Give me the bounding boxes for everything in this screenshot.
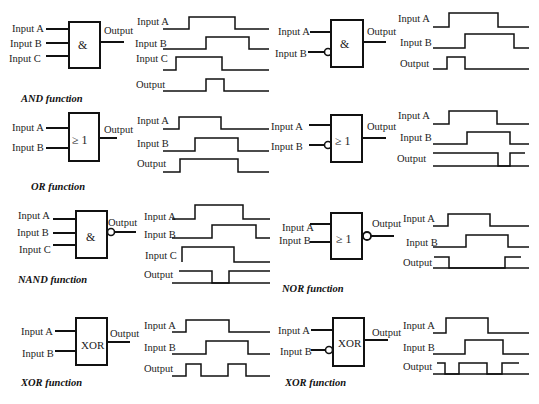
waveform-a: [163, 117, 269, 129]
xor-gate-sign: XOR: [81, 339, 105, 351]
xor-gate-panel: Input A Input B XOR Output XOR function …: [20, 318, 270, 388]
and2-output-label: Output: [367, 26, 396, 37]
wave-label-b: Input B: [400, 37, 432, 48]
waveform-output-high: [433, 153, 525, 166]
wave-label-output: Output: [137, 158, 166, 169]
wave-label-a: Input A: [398, 110, 430, 121]
xor2-output-label: Output: [372, 327, 401, 338]
or-function-title: OR function: [31, 181, 85, 192]
wave-label-a: Input A: [403, 320, 435, 331]
wave-label-c: Input C: [145, 250, 177, 261]
wave-label-a: Input A: [144, 320, 176, 331]
waveform-output: [163, 159, 269, 172]
waveform-a: [172, 205, 270, 219]
nor-input-a-label: Input A: [282, 222, 314, 233]
wave-label-output: Output: [136, 79, 165, 90]
nand-input-a-label: Input A: [18, 210, 50, 221]
wave-label-b: Input B: [403, 342, 435, 353]
wave-label-output: Output: [144, 269, 173, 280]
nor-function-title: NOR function: [281, 283, 344, 294]
xor-input-a-label: Input A: [21, 326, 53, 337]
waveform-b: [172, 225, 270, 238]
xor-function-title: XOR function: [20, 377, 82, 388]
and-gate-sign: &: [78, 38, 88, 52]
and2-input-b-label: Input B: [275, 48, 307, 59]
and2-input-a-label: Input A: [278, 26, 310, 37]
xor-input-b-label: Input B: [22, 348, 54, 359]
wave-label-b: Input B: [135, 38, 167, 49]
or2-input-b-label: Input B: [271, 141, 303, 152]
inversion-bubble-icon: [363, 232, 371, 240]
nand-input-c-label: Input C: [19, 244, 51, 255]
wave-label-a: Input A: [403, 213, 435, 224]
waveform-b: [172, 341, 270, 354]
waveform-c: [182, 247, 270, 262]
wave-label-a: Input A: [144, 211, 176, 222]
and-input-b-label: Input B: [10, 38, 42, 49]
waveform-output: [433, 57, 529, 69]
or-gate-panel: Input A Input B ≥ 1 Output OR function I…: [12, 113, 269, 192]
wave-label-b: Input B: [400, 132, 432, 143]
wave-label-a: Input A: [137, 16, 169, 27]
waveform-output: [163, 79, 269, 91]
nor-input-b-label: Input B: [279, 235, 311, 246]
wave-label-output: Output: [403, 361, 432, 372]
waveform-b: [163, 138, 269, 151]
and2-gate-sign: &: [340, 37, 350, 51]
waveform-b: [433, 34, 529, 48]
nand-gate-panel: Input A Input B Input C & Output NAND fu…: [17, 205, 270, 285]
waveform-a: [433, 318, 529, 333]
inversion-bubble-icon: [326, 347, 333, 354]
and-output-label: Output: [104, 25, 133, 36]
xor2-input-a-label: Input A: [278, 325, 310, 336]
xor-output-label: Output: [110, 328, 139, 339]
and-input-a-label: Input A: [12, 23, 44, 34]
inversion-bubble-icon: [108, 229, 115, 236]
nor-gate-sign: ≥ 1: [336, 232, 352, 246]
waveform-b: [433, 132, 529, 144]
nand-function-title: NAND function: [17, 274, 87, 285]
waveform-b: [433, 235, 529, 247]
and-inverted-b-panel: Input A Input B & Output Input A Input B…: [275, 13, 529, 69]
wave-label-c: Input C: [136, 53, 168, 64]
nand-input-b-label: Input B: [17, 227, 49, 238]
wave-label-output: Output: [144, 363, 173, 374]
waveform-output: [172, 364, 270, 376]
waveform-b: [163, 37, 269, 49]
or2-gate-sign: ≥ 1: [335, 134, 351, 148]
waveform-output: [434, 257, 521, 268]
nand-gate-sign: &: [86, 230, 96, 244]
wave-label-a: Input A: [137, 115, 169, 126]
or-gate-sign: ≥ 1: [72, 133, 88, 147]
waveform-output: [179, 271, 270, 283]
wave-label-output: Output: [397, 153, 426, 164]
waveform-a: [172, 320, 270, 332]
or2-input-a-label: Input A: [271, 121, 303, 132]
wave-label-a: Input A: [398, 13, 430, 24]
xor2-function-title: XOR function: [284, 377, 346, 388]
xor-inverted-b-panel: Input A Input B XOR Output XOR function …: [278, 318, 529, 388]
waveform-a: [433, 13, 529, 27]
xor2-gate-sign: XOR: [338, 337, 362, 349]
and-gate-panel: Input A Input B Input C & Output AND fun…: [9, 16, 269, 104]
and-function-title: AND function: [20, 93, 83, 104]
wave-label-output: Output: [403, 257, 432, 268]
wave-label-b: Input B: [144, 229, 176, 240]
waveform-b: [433, 340, 529, 354]
wave-label-output: Output: [400, 58, 429, 69]
waveform-a: [433, 111, 529, 124]
xor2-input-b-label: Input B: [280, 346, 312, 357]
waveform-output: [437, 363, 519, 374]
or-input-b-label: Input B: [12, 142, 44, 153]
or-inverted-b-panel: Input A Input B ≥ 1 Output Input A Input…: [271, 110, 529, 166]
nand-output-label: Output: [108, 217, 137, 228]
nor-gate-panel: Input A Input B ≥ 1 Output NOR function …: [279, 213, 529, 294]
waveform-a: [433, 214, 529, 226]
logic-gates-diagram: Input A Input B Input C & Output AND fun…: [0, 0, 539, 404]
nor-output-label: Output: [372, 218, 401, 229]
and-input-c-label: Input C: [9, 53, 41, 64]
wave-label-b: Input B: [144, 342, 176, 353]
or2-output-label: Output: [367, 121, 396, 132]
or-input-a-label: Input A: [12, 122, 44, 133]
waveform-a: [163, 17, 269, 29]
